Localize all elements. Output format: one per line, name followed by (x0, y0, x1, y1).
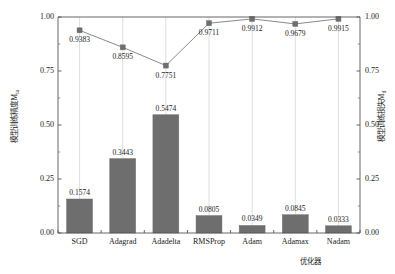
line-value-label: 0.9915 (313, 24, 363, 33)
y-axis-right-tick-label: 1.00 (365, 12, 395, 21)
line-marker[interactable] (207, 21, 212, 26)
bar-value-label: 0.0333 (313, 215, 363, 224)
bar-value-label: 0.5474 (141, 104, 191, 113)
bar-value-label: 0.3443 (98, 148, 148, 157)
bar-value-label: 0.0805 (184, 205, 234, 214)
y-axis-right-tick-label: 0.50 (365, 120, 395, 129)
line-value-label: 0.7751 (141, 71, 191, 80)
y-axis-left-tick-label: 0.50 (20, 120, 54, 129)
x-axis-category-label: Nadam (308, 237, 368, 246)
bar[interactable] (239, 225, 265, 233)
line-marker[interactable] (293, 21, 298, 26)
line-marker[interactable] (163, 63, 168, 68)
y-axis-left-tick-label: 0.75 (20, 66, 54, 75)
bar[interactable] (153, 115, 179, 233)
chart-container: 模型训练精度Mta 模型训练损失Mtl 优化器 0.000.250.500.75… (0, 0, 395, 274)
line-marker[interactable] (120, 45, 125, 50)
bar[interactable] (196, 216, 222, 233)
y-axis-left-tick-label: 1.00 (20, 12, 54, 21)
line-value-label: 0.8595 (98, 52, 148, 61)
bar-value-label: 0.0349 (227, 214, 277, 223)
y-axis-left-tick-label: 0.25 (20, 174, 54, 183)
y-axis-right-tick-label: 0.00 (365, 228, 395, 237)
bar[interactable] (67, 199, 93, 233)
y-axis-left-tick-label: 0.00 (20, 228, 54, 237)
bar[interactable] (325, 226, 351, 233)
bar-value-label: 0.1574 (55, 188, 105, 197)
bar-value-label: 0.0845 (270, 204, 320, 213)
bar[interactable] (282, 215, 308, 233)
bar[interactable] (110, 159, 136, 233)
line-marker[interactable] (77, 28, 82, 33)
y-axis-right-tick-label: 0.75 (365, 66, 395, 75)
y-axis-right-tick-label: 0.25 (365, 174, 395, 183)
line-value-label: 0.9383 (55, 35, 105, 44)
